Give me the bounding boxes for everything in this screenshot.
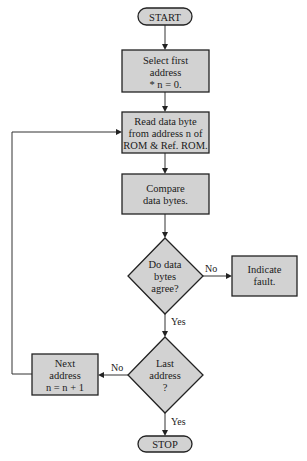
next-line-2: address [49,370,81,381]
stop-terminal: STOP [138,436,192,452]
fault-line-1: Indicate [248,264,282,275]
agree-line-1: Do data [149,259,182,270]
next-line-1: Next [55,358,75,369]
read-line-2: from address n of [129,128,203,139]
edge-next-loop-to-read [12,132,118,374]
arrow-head-icon [116,129,122,135]
agree-line-3: agree? [151,283,179,294]
agree-yes-label: Yes [171,316,186,327]
decision-last-address: Last address ? [128,337,203,413]
arrow-head-icon [162,430,168,436]
next-line-3: n = n + 1 [46,382,84,393]
select-line-2: address [150,67,182,78]
last-line-2: address [149,370,181,381]
compare-data-bytes-box: Compare data bytes. [122,174,209,214]
last-line-3: ? [163,382,168,393]
last-line-1: Last [156,358,174,369]
last-yes-label: Yes [171,416,186,427]
decision-data-bytes-agree: Do data bytes agree? [128,238,203,314]
read-line-3: ROM & Ref. ROM. [123,140,207,151]
read-line-1: Read data byte [134,116,197,127]
stop-label: STOP [152,439,178,450]
start-terminal: START [138,8,192,25]
select-first-address-box: Select first address * n = 0. [122,50,209,92]
compare-line-2: data bytes. [143,195,188,206]
fault-line-2: fault. [254,276,276,287]
arrow-head-icon [162,106,168,112]
select-line-3: * n = 0. [149,79,181,90]
agree-line-2: bytes [154,271,176,282]
read-data-byte-box: Read data byte from address n of ROM & R… [122,112,209,153]
next-address-box: Next address n = n + 1 [32,354,98,395]
agree-no-label: No [205,263,217,274]
last-no-label: No [111,362,123,373]
arrow-head-icon [162,168,168,174]
arrow-head-icon [162,44,168,50]
compare-line-1: Compare [146,183,185,194]
indicate-fault-box: Indicate fault. [232,256,297,296]
start-label: START [149,12,181,23]
arrow-head-icon [226,273,232,279]
select-line-1: Select first [143,55,188,66]
arrow-head-icon [98,372,104,378]
flowchart: START Select first address * n = 0. Read… [0,0,307,461]
